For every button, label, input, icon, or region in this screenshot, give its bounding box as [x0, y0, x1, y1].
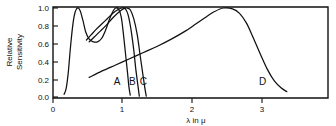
- y-axis-ticks: [53, 8, 58, 97]
- x-tick-label-2: 2: [190, 105, 195, 114]
- relative-sensitivity-chart-figure: 1.0 0.8 0.6 0.4 0.2 0.0 0 1 2 3 λ in μ R…: [0, 0, 336, 126]
- y-tick-label-0-4: 0.4: [38, 58, 50, 67]
- x-tick-label-3: 3: [260, 105, 265, 114]
- x-axis-tick-labels: 0 1 2 3: [51, 105, 265, 114]
- y-axis-tick-labels: 1.0 0.8 0.6 0.4 0.2 0.0: [38, 4, 50, 102]
- y-tick-label-1-0: 1.0: [38, 4, 50, 13]
- y-axis-title-line-2: Sensitivity: [15, 34, 24, 70]
- curve-label-b: B: [129, 76, 136, 87]
- y-tick-label-0-2: 0.2: [38, 76, 50, 85]
- x-axis-title: λ in μ: [186, 116, 206, 125]
- curve-label-d: D: [259, 76, 266, 87]
- y-axis-title-line-1: Relative: [5, 37, 14, 66]
- plot-border: [53, 7, 328, 98]
- curve-label-c: C: [140, 76, 147, 87]
- y-tick-label-0-8: 0.8: [38, 22, 50, 31]
- y-tick-label-0-6: 0.6: [38, 40, 50, 49]
- plot-frame: [53, 7, 328, 98]
- y-tick-label-0-0: 0.0: [38, 93, 50, 102]
- chart-canvas: 1.0 0.8 0.6 0.4 0.2 0.0 0 1 2 3 λ in μ R…: [0, 0, 336, 126]
- x-tick-label-1: 1: [120, 105, 125, 114]
- x-tick-label-0: 0: [51, 105, 56, 114]
- curve-label-a: A: [114, 76, 121, 87]
- data-curves: [64, 8, 287, 96]
- x-axis-ticks: [53, 98, 262, 103]
- y-axis-title: Relative Sensitivity: [5, 34, 24, 70]
